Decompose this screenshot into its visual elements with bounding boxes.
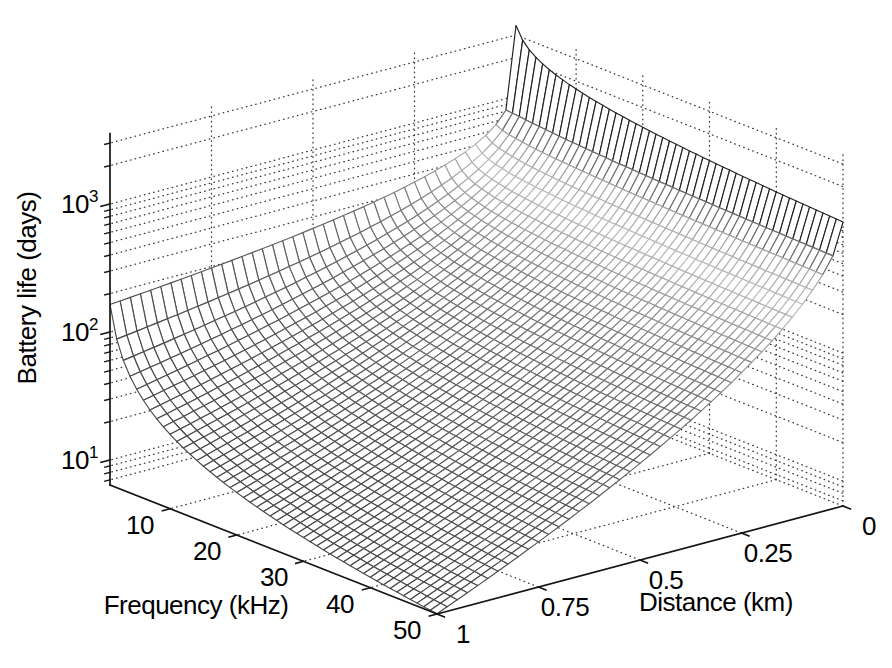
y-tick-label: 0.75 — [541, 592, 590, 622]
y-tick-label: 1 — [456, 619, 470, 649]
battery-life-3d-plot: 102030405010.750.50.250101102103 Battery… — [0, 0, 892, 668]
z-tick-label: 102 — [61, 315, 98, 347]
y-tick-label: 0.25 — [744, 538, 793, 568]
z-axis-label: Battery life (days) — [12, 192, 42, 385]
x-tick-label: 20 — [193, 536, 221, 566]
x-tick-label: 30 — [260, 562, 288, 592]
z-tick-label: 103 — [61, 187, 98, 219]
x-tick-label: 10 — [126, 510, 154, 540]
x-tick-label: 40 — [326, 589, 354, 619]
x-tick-label: 50 — [393, 615, 421, 645]
y-axis-label: Distance (km) — [639, 587, 793, 617]
z-tick-label: 101 — [61, 443, 98, 475]
surface-mesh — [110, 26, 843, 614]
x-axis-label: Frequency (kHz) — [104, 590, 289, 620]
figure-canvas: 102030405010.750.50.250101102103 Battery… — [0, 0, 892, 668]
y-tick-label: 0 — [862, 511, 876, 541]
